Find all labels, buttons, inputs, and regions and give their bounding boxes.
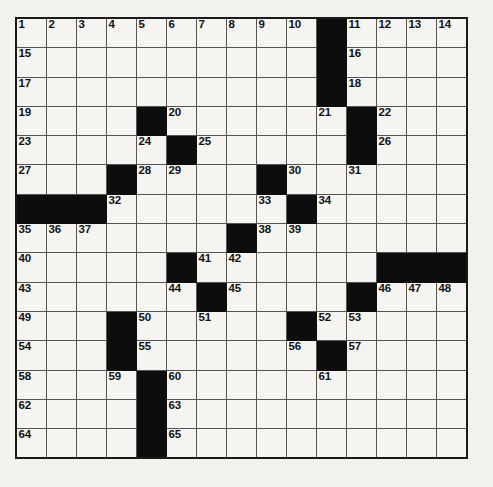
- crossword-cell[interactable]: 21: [317, 106, 347, 135]
- crossword-cell[interactable]: [317, 399, 347, 428]
- crossword-cell[interactable]: 19: [16, 106, 47, 135]
- crossword-cell[interactable]: [167, 77, 197, 106]
- crossword-cell[interactable]: [47, 311, 77, 340]
- crossword-cell[interactable]: [317, 165, 347, 194]
- crossword-cell[interactable]: [377, 311, 407, 340]
- crossword-cell[interactable]: [287, 136, 317, 165]
- crossword-cell[interactable]: [287, 48, 317, 77]
- crossword-cell[interactable]: [407, 165, 437, 194]
- crossword-cell[interactable]: [377, 429, 407, 459]
- crossword-cell[interactable]: [227, 341, 257, 370]
- crossword-cell[interactable]: [407, 77, 437, 106]
- crossword-cell[interactable]: [437, 136, 468, 165]
- crossword-cell[interactable]: 59: [107, 370, 137, 399]
- crossword-cell[interactable]: [377, 399, 407, 428]
- crossword-cell[interactable]: 18: [347, 77, 377, 106]
- crossword-cell[interactable]: [287, 370, 317, 399]
- crossword-cell[interactable]: [197, 224, 227, 253]
- crossword-cell[interactable]: [77, 253, 107, 282]
- crossword-cell[interactable]: [407, 106, 437, 135]
- crossword-cell[interactable]: 62: [16, 399, 47, 428]
- crossword-cell[interactable]: 9: [257, 18, 287, 48]
- crossword-cell[interactable]: 45: [227, 282, 257, 311]
- crossword-cell[interactable]: [167, 48, 197, 77]
- crossword-cell[interactable]: [437, 311, 468, 340]
- crossword-cell[interactable]: [257, 253, 287, 282]
- crossword-cell[interactable]: [407, 429, 437, 459]
- crossword-cell[interactable]: 33: [257, 194, 287, 223]
- crossword-cell[interactable]: [77, 311, 107, 340]
- crossword-cell[interactable]: [437, 165, 468, 194]
- crossword-cell[interactable]: [107, 429, 137, 459]
- crossword-cell[interactable]: [287, 253, 317, 282]
- crossword-cell[interactable]: [137, 282, 167, 311]
- crossword-cell[interactable]: 13: [407, 18, 437, 48]
- crossword-cell[interactable]: [407, 370, 437, 399]
- crossword-cell[interactable]: [287, 77, 317, 106]
- crossword-cell[interactable]: [197, 399, 227, 428]
- crossword-cell[interactable]: 47: [407, 282, 437, 311]
- crossword-cell[interactable]: [107, 399, 137, 428]
- crossword-cell[interactable]: [407, 399, 437, 428]
- crossword-cell[interactable]: [377, 370, 407, 399]
- crossword-cell[interactable]: [437, 370, 468, 399]
- crossword-cell[interactable]: [257, 282, 287, 311]
- crossword-cell[interactable]: [437, 224, 468, 253]
- crossword-cell[interactable]: [197, 341, 227, 370]
- crossword-cell[interactable]: [167, 341, 197, 370]
- crossword-cell[interactable]: [47, 253, 77, 282]
- crossword-cell[interactable]: [197, 165, 227, 194]
- crossword-cell[interactable]: 49: [16, 311, 47, 340]
- crossword-cell[interactable]: 58: [16, 370, 47, 399]
- crossword-cell[interactable]: 6: [167, 18, 197, 48]
- crossword-cell[interactable]: [77, 136, 107, 165]
- crossword-cell[interactable]: 3: [77, 18, 107, 48]
- crossword-cell[interactable]: 46: [377, 282, 407, 311]
- crossword-cell[interactable]: [77, 429, 107, 459]
- crossword-cell[interactable]: 32: [107, 194, 137, 223]
- crossword-cell[interactable]: [227, 194, 257, 223]
- crossword-cell[interactable]: [407, 194, 437, 223]
- crossword-cell[interactable]: [377, 77, 407, 106]
- crossword-cell[interactable]: [317, 136, 347, 165]
- crossword-cell[interactable]: [437, 194, 468, 223]
- crossword-cell[interactable]: [227, 165, 257, 194]
- crossword-cell[interactable]: [317, 282, 347, 311]
- crossword-cell[interactable]: 35: [16, 224, 47, 253]
- crossword-cell[interactable]: [437, 48, 468, 77]
- crossword-cell[interactable]: 37: [77, 224, 107, 253]
- crossword-cell[interactable]: [107, 136, 137, 165]
- crossword-cell[interactable]: 12: [377, 18, 407, 48]
- crossword-cell[interactable]: 54: [16, 341, 47, 370]
- crossword-cell[interactable]: [437, 429, 468, 459]
- crossword-cell[interactable]: 29: [167, 165, 197, 194]
- crossword-cell[interactable]: [257, 429, 287, 459]
- crossword-cell[interactable]: 52: [317, 311, 347, 340]
- crossword-grid[interactable]: 1234567891011121314151617181920212223242…: [15, 17, 468, 459]
- crossword-cell[interactable]: [227, 48, 257, 77]
- crossword-cell[interactable]: 61: [317, 370, 347, 399]
- crossword-cell[interactable]: [197, 77, 227, 106]
- crossword-cell[interactable]: 27: [16, 165, 47, 194]
- crossword-cell[interactable]: 55: [137, 341, 167, 370]
- crossword-cell[interactable]: [77, 370, 107, 399]
- crossword-cell[interactable]: [437, 341, 468, 370]
- crossword-cell[interactable]: [137, 224, 167, 253]
- crossword-cell[interactable]: [107, 77, 137, 106]
- crossword-cell[interactable]: [227, 77, 257, 106]
- crossword-cell[interactable]: [197, 429, 227, 459]
- crossword-cell[interactable]: [257, 341, 287, 370]
- crossword-cell[interactable]: 48: [437, 282, 468, 311]
- crossword-cell[interactable]: [407, 341, 437, 370]
- crossword-cell[interactable]: 1: [16, 18, 47, 48]
- crossword-cell[interactable]: [407, 136, 437, 165]
- crossword-cell[interactable]: [107, 106, 137, 135]
- crossword-cell[interactable]: 56: [287, 341, 317, 370]
- crossword-cell[interactable]: [347, 253, 377, 282]
- crossword-cell[interactable]: [77, 48, 107, 77]
- crossword-cell[interactable]: 53: [347, 311, 377, 340]
- crossword-cell[interactable]: [47, 106, 77, 135]
- crossword-cell[interactable]: [227, 399, 257, 428]
- crossword-cell[interactable]: [347, 399, 377, 428]
- crossword-cell[interactable]: [77, 341, 107, 370]
